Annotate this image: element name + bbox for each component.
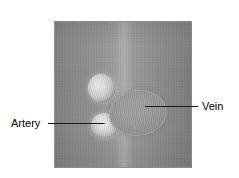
artery-label: Artery [11,117,40,129]
ultrasound-scan-panel [54,21,192,168]
vein-leader-line [145,106,198,107]
vein-label: Vein [202,100,223,112]
artery-leader-line [48,123,105,124]
ultrasound-figure: Artery Vein [0,0,239,178]
